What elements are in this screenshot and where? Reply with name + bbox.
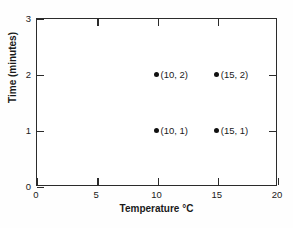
x-axis-tick-label: 10 — [142, 189, 172, 200]
plot-area — [36, 18, 277, 186]
scatter-plot-figure: Temperature °C Time (minutes) 0510152001… — [0, 0, 293, 228]
y-axis-tick-label: 3 — [16, 13, 31, 24]
x-axis-tick-top — [218, 19, 219, 26]
y-axis-tick-label: 2 — [16, 69, 31, 80]
x-axis-tick-top — [158, 19, 159, 26]
y-axis-tick — [37, 75, 44, 76]
y-axis-tick — [37, 131, 44, 132]
x-axis-title: Temperature °C — [36, 203, 277, 214]
y-axis-tick-label: 0 — [16, 181, 31, 192]
x-axis-tick — [97, 178, 98, 185]
x-axis-tick-label: 20 — [262, 189, 292, 200]
data-point-label: (10, 1) — [161, 125, 188, 136]
data-point-label: (15, 2) — [221, 69, 248, 80]
x-axis-tick — [218, 178, 219, 185]
x-axis-tick-label: 15 — [202, 189, 232, 200]
y-axis-tick — [37, 19, 44, 20]
x-axis-tick-top — [97, 19, 98, 26]
data-point-marker[interactable] — [214, 72, 219, 77]
x-axis-tick — [158, 178, 159, 185]
data-point-label: (10, 2) — [161, 69, 188, 80]
x-axis-tick — [278, 178, 279, 185]
x-axis-tick — [37, 178, 38, 185]
data-point-marker[interactable] — [214, 128, 219, 133]
y-axis-tick-label: 1 — [16, 125, 31, 136]
data-point-label: (15, 1) — [221, 125, 248, 136]
y-axis-tick-right — [269, 131, 276, 132]
y-axis-tick-right — [269, 75, 276, 76]
y-axis-title: Time (minutes) — [7, 8, 18, 128]
data-point-marker[interactable] — [154, 72, 159, 77]
data-point-marker[interactable] — [154, 128, 159, 133]
x-axis-tick-label: 5 — [81, 189, 111, 200]
